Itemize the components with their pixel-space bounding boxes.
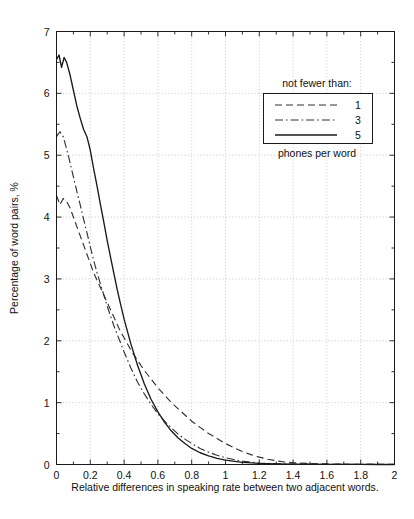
line-chart: 00.20.40.60.811.21.41.61.8201234567 Rela… <box>0 0 414 519</box>
y-tick-label: 1 <box>44 397 50 409</box>
x-tick-label: 2 <box>392 469 398 481</box>
x-tick-label: 0.8 <box>184 469 199 481</box>
y-axis-label: Percentage of word pairs, % <box>8 182 20 314</box>
y-tick-label: 5 <box>44 149 50 161</box>
legend-label-3: 3 <box>355 114 361 126</box>
y-tick-label: 7 <box>44 26 50 38</box>
x-tick-label: 1.8 <box>353 469 368 481</box>
y-tick-label: 0 <box>44 459 50 471</box>
x-tick-label: 1 <box>223 469 229 481</box>
x-tick-label: 0 <box>54 469 60 481</box>
chart-background <box>0 0 414 519</box>
x-tick-label: 0.4 <box>117 469 132 481</box>
legend-title: not fewer than: <box>282 77 351 89</box>
x-tick-label: 1.2 <box>252 469 267 481</box>
y-tick-label: 4 <box>44 211 50 223</box>
y-tick-label: 6 <box>44 87 50 99</box>
chart-figure: 00.20.40.60.811.21.41.61.8201234567 Rela… <box>0 0 414 519</box>
x-tick-label: 1.6 <box>320 469 335 481</box>
legend-label-5: 5 <box>355 129 361 141</box>
legend-label-1: 1 <box>355 99 361 111</box>
legend-footer: phones per word <box>278 147 356 159</box>
x-tick-label: 1.4 <box>286 469 301 481</box>
y-tick-label: 3 <box>44 273 50 285</box>
x-tick-label: 0.2 <box>83 469 98 481</box>
x-axis-label: Relative differences in speaking rate be… <box>71 481 378 493</box>
y-tick-label: 2 <box>44 335 50 347</box>
x-tick-label: 0.6 <box>151 469 166 481</box>
